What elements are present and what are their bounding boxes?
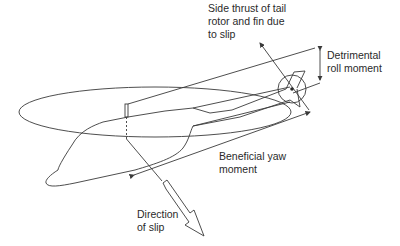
helicopter-sideslip-diagram: Side thrust of tail rotor and fin due to… bbox=[0, 0, 400, 246]
rotor-mast bbox=[125, 104, 128, 117]
diagram-canvas bbox=[0, 0, 400, 246]
tail-boom-lower bbox=[193, 102, 290, 126]
detrimental-roll-label: Detrimental roll moment bbox=[327, 49, 382, 75]
slip-direction-line bbox=[127, 139, 163, 181]
side-thrust-label: Side thrust of tail rotor and fin due to… bbox=[208, 2, 286, 41]
tail-fin bbox=[286, 71, 305, 107]
beneficial-yaw-label: Beneficial yaw moment bbox=[219, 150, 286, 176]
direction-of-slip-label: Direction of slip bbox=[137, 208, 178, 234]
side-thrust-arrow bbox=[260, 43, 309, 110]
